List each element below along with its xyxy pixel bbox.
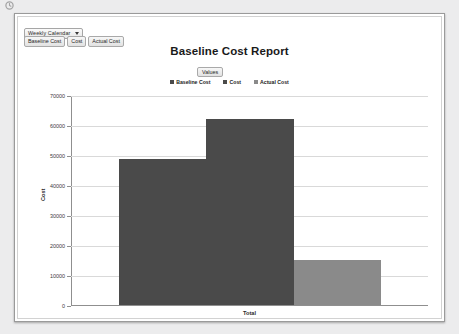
y-tick-label: 40000 (50, 183, 65, 189)
bar-series-group (72, 96, 428, 305)
legend-item-baseline-cost: Baseline Cost (170, 79, 210, 85)
y-tick-label: 70000 (50, 93, 65, 99)
y-tick-mark (67, 96, 71, 97)
legend-swatch-icon (223, 80, 227, 84)
legend-label: Baseline Cost (176, 79, 210, 85)
bar-cost[interactable] (206, 119, 293, 305)
report-panel-inner: Weekly Calendar Baseline Cost Cost Actua… (17, 16, 442, 319)
y-tick-mark (67, 126, 71, 127)
y-tick-label: 60000 (50, 123, 65, 129)
bar-baseline-cost[interactable] (119, 159, 206, 305)
y-tick-label: 30000 (50, 213, 65, 219)
report-panel: Weekly Calendar Baseline Cost Cost Actua… (14, 13, 445, 322)
y-tick-label: 20000 (50, 243, 65, 249)
legend-swatch-icon (254, 80, 258, 84)
legend-item-cost: Cost (223, 79, 241, 85)
legend-label: Cost (229, 79, 241, 85)
legend-item-actual-cost: Actual Cost (254, 79, 289, 85)
bar-actual-cost[interactable] (294, 260, 381, 305)
x-axis-category-label: Total (71, 310, 428, 316)
y-tick-mark (67, 156, 71, 157)
chevron-down-icon (75, 32, 79, 35)
legend-label: Actual Cost (260, 79, 289, 85)
y-tick-label: 10000 (50, 273, 65, 279)
y-tick-mark (67, 276, 71, 277)
chart-legend: Baseline Cost Cost Actual Cost (18, 79, 441, 85)
values-button-label: Values (202, 69, 218, 75)
y-tick-label: 50000 (50, 153, 65, 159)
legend-swatch-icon (170, 80, 174, 84)
plot-area: 010000200003000040000500006000070000 (71, 96, 428, 306)
values-button[interactable]: Values (197, 67, 223, 77)
app-icon (5, 1, 14, 10)
y-tick-mark (67, 186, 71, 187)
y-tick-mark (67, 246, 71, 247)
y-axis-title: Cost (40, 189, 46, 201)
y-tick-mark (67, 216, 71, 217)
y-tick-mark (67, 306, 71, 307)
chart-title: Baseline Cost Report (18, 45, 441, 57)
y-tick-label: 0 (62, 303, 65, 309)
